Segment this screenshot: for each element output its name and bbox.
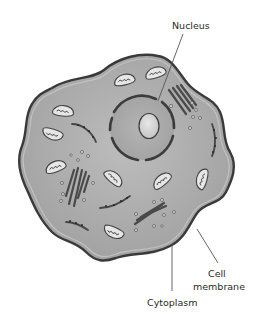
cell-membrane-label-line2: membrane — [193, 281, 245, 292]
nucleus — [110, 96, 174, 160]
cell-membrane-leader-line — [197, 229, 218, 263]
cytoplasm-label: Cytoplasm — [147, 297, 198, 308]
animal-cell-diagram: Nucleus Cell membrane Cytoplasm — [0, 0, 254, 324]
cell-membrane — [19, 55, 234, 261]
nucleolus — [139, 114, 159, 139]
cell-membrane-label-line1: Cell — [208, 268, 226, 279]
nucleus-label: Nucleus — [172, 20, 210, 31]
